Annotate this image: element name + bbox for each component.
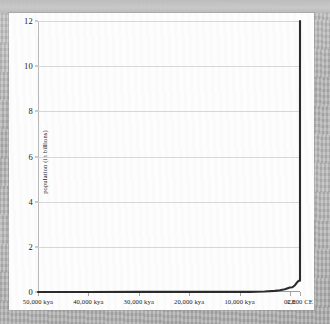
- x-tick-mark-6: [300, 292, 301, 296]
- x-tick-mark-5: [290, 292, 291, 296]
- page-top-band: [0, 0, 330, 13]
- chart-figure: population (in billions) 024681012 50,00…: [9, 13, 314, 310]
- y-tick-label-4: 4: [29, 197, 33, 207]
- y-tick-label-12: 12: [24, 16, 33, 26]
- x-tick-label-2: 30,000 kya: [124, 298, 154, 305]
- x-tick-label-4: 10,000 kya: [224, 298, 254, 305]
- series-path: [38, 21, 300, 292]
- y-tick-label-6: 6: [29, 152, 33, 162]
- x-tick-label-0: 50,000 kya: [23, 298, 53, 305]
- chart-card: population (in billions) 024681012 50,00…: [9, 13, 314, 310]
- population-line-series: [38, 21, 300, 292]
- x-tick-label-6: 2,000 CE: [287, 298, 313, 305]
- y-tick-label-8: 8: [29, 106, 33, 116]
- y-tick-label-2: 2: [29, 242, 33, 252]
- x-tick-label-1: 40,000 kya: [73, 298, 103, 305]
- plot-area: 024681012 50,000 kya40,000 kya30,000 kya…: [38, 21, 300, 292]
- y-tick-label-10: 10: [24, 61, 33, 71]
- x-tick-label-3: 20,000 kya: [174, 298, 204, 305]
- y-tick-label-0: 0: [29, 287, 33, 297]
